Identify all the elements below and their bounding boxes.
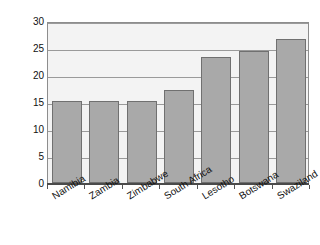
bar[interactable] (239, 51, 269, 183)
y-tick-label: 5 (24, 152, 44, 162)
x-axis-category-labels: NamibiaZambiaZimbabweSouth AfricaLesotho… (0, 186, 320, 245)
y-tick-label: 30 (24, 17, 44, 27)
bar-chart: Percentage 051015202530 NamibiaZambiaZim… (0, 0, 320, 245)
bar[interactable] (276, 39, 306, 183)
bar[interactable] (164, 90, 194, 183)
y-tick-label: 25 (24, 44, 44, 54)
y-tick-label: 15 (24, 98, 44, 108)
bar-slot (89, 23, 119, 183)
bar[interactable] (52, 101, 82, 183)
bar[interactable] (89, 101, 119, 183)
bar-slot (164, 23, 194, 183)
bars-group (48, 23, 308, 183)
plot-area (47, 22, 309, 184)
bar-slot (52, 23, 82, 183)
bar-slot (201, 23, 231, 183)
bar-slot (239, 23, 269, 183)
bar[interactable] (127, 101, 157, 183)
bar-slot (127, 23, 157, 183)
y-tick-label: 20 (24, 71, 44, 81)
bar-slot (276, 23, 306, 183)
y-tick-label: 10 (24, 125, 44, 135)
